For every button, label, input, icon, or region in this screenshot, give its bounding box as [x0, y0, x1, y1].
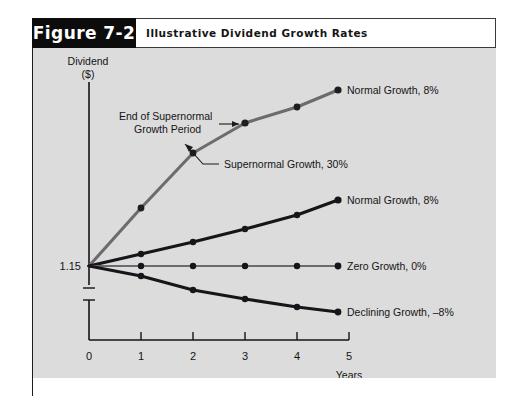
series-label-declining: Declining Growth, –8%: [347, 306, 454, 318]
figure-number-badge: Figure 7-2: [32, 18, 136, 48]
annotation-supernormal-callout: Supernormal Growth, 30%: [224, 158, 348, 170]
x-tick-label-3: 3: [242, 350, 248, 362]
chart-panel: Dividend ($) 0 1 2 3 4 5 Yea: [33, 48, 496, 378]
data-point: [138, 251, 144, 257]
data-point: [335, 263, 342, 270]
figure-title: Illustrative Dividend Growth Rates: [136, 27, 368, 39]
figure-title-box: Illustrative Dividend Growth Rates: [136, 18, 496, 48]
data-point: [190, 239, 196, 245]
data-point: [294, 104, 301, 111]
curve-normal-growth: [89, 200, 338, 266]
data-point: [190, 287, 196, 293]
series-label-zero: Zero Growth, 0%: [347, 260, 426, 272]
data-point: [242, 263, 248, 269]
x-tick-label-4: 4: [294, 350, 300, 362]
data-point: [242, 296, 248, 302]
x-tick-label-5: 5: [346, 350, 352, 362]
y-axis-label-line2: ($): [82, 68, 95, 80]
y-tick-label-base: 1.15: [60, 260, 81, 272]
data-point: [334, 86, 341, 93]
data-point: [242, 226, 248, 232]
x-axis-label: Years: [336, 369, 362, 378]
data-point: [138, 263, 144, 269]
x-tick-label-0: 0: [86, 350, 92, 362]
figure-header: Figure 7-2 Illustrative Dividend Growth …: [32, 18, 496, 48]
annotation-end-supernormal-line2: Growth Period: [134, 123, 201, 135]
figure-container: Figure 7-2 Illustrative Dividend Growth …: [0, 0, 516, 410]
data-point: [190, 263, 196, 269]
data-point: [294, 263, 300, 269]
chart-svg: Dividend ($) 0 1 2 3 4 5 Yea: [33, 48, 496, 378]
data-point: [241, 119, 248, 126]
y-axis-label-line1: Dividend: [68, 55, 109, 67]
curve-declining-growth: [89, 266, 338, 312]
data-point: [138, 273, 144, 279]
x-tick-label-1: 1: [138, 350, 144, 362]
data-point: [294, 304, 300, 310]
figure-number-label: Figure 7-2: [33, 23, 135, 43]
x-tick-label-2: 2: [190, 350, 196, 362]
series-label-normal: Normal Growth, 8%: [347, 194, 439, 206]
annotation-end-supernormal-line1: End of Supernormal: [119, 110, 212, 122]
data-point: [334, 196, 341, 203]
series-label-supernormal-end: Normal Growth, 8%: [347, 84, 439, 96]
data-point: [335, 309, 342, 316]
data-point: [294, 212, 300, 218]
data-point: [138, 205, 145, 212]
